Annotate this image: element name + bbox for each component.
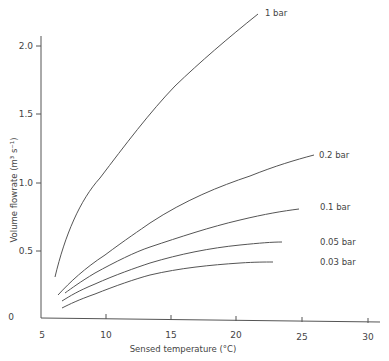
series-label-0.05-bar: 0.05 bar bbox=[320, 237, 356, 247]
y-axis-title: Volume flowrate (m³ s⁻¹) bbox=[9, 137, 19, 242]
x-tick-label: 20 bbox=[230, 330, 242, 340]
y-tick-label: 0 bbox=[8, 312, 14, 322]
y-tick-label: 0.5 bbox=[19, 246, 33, 256]
x-tick-label: 30 bbox=[362, 332, 374, 342]
curve-0.1-bar bbox=[65, 209, 299, 293]
curve-0.05-bar bbox=[62, 242, 282, 301]
series-label-0.1-bar: 0.1 bar bbox=[320, 202, 351, 212]
y-tick-label: 2.0 bbox=[19, 41, 34, 51]
curve-1-bar bbox=[55, 14, 258, 277]
x-tick-label: 10 bbox=[100, 330, 112, 340]
flowrate-chart: 2.0 1.5 1.0 0.5 0 5 10 15 20 25 30 Sense… bbox=[0, 0, 389, 361]
series-label-0.2-bar: 0.2 bar bbox=[319, 150, 350, 160]
curve-0.2-bar bbox=[58, 155, 314, 295]
series-label-0.03-bar: 0.03 bar bbox=[320, 257, 356, 267]
series-label-1-bar: 1 bar bbox=[265, 8, 288, 18]
y-tick-label: 1.0 bbox=[19, 178, 34, 188]
x-tick-label: 5 bbox=[39, 330, 45, 340]
x-axis-title: Sensed temperature (°C) bbox=[130, 344, 237, 354]
x-tick-label: 25 bbox=[296, 332, 307, 342]
x-axis bbox=[41, 318, 380, 322]
x-tick-label: 15 bbox=[165, 330, 176, 340]
y-tick-label: 1.5 bbox=[19, 109, 33, 119]
